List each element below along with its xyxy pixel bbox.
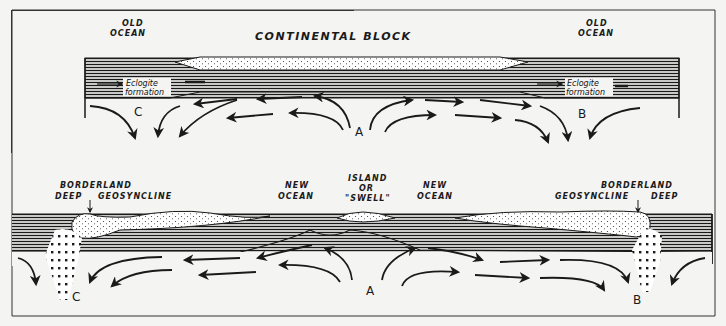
- svg-text:OR: OR: [359, 184, 374, 193]
- island-label: ISLAND: [348, 174, 387, 183]
- deep-label-right: DEEP: [651, 192, 678, 201]
- formation-label-left: formation: [125, 88, 164, 97]
- point-b: B: [578, 107, 586, 121]
- new-ocean-label-left: NEW: [285, 181, 309, 190]
- deep-label-left: DEEP: [55, 192, 82, 201]
- new-ocean-label-right: NEW: [423, 181, 447, 190]
- borderland-label-left: BORDERLAND: [60, 181, 132, 190]
- svg-text:OCEAN: OCEAN: [578, 29, 614, 38]
- formation-label-right: formation: [566, 88, 605, 97]
- point-c-bottom: C: [72, 290, 80, 304]
- convection-arrows-top: [90, 96, 640, 142]
- point-c: C: [134, 105, 142, 119]
- point-a-bottom: A: [366, 284, 375, 298]
- eclogite-label-right: Eclogite: [567, 79, 599, 88]
- svg-text:OCEAN: OCEAN: [278, 192, 314, 201]
- convection-diagram: Eclogite formation Eclogite formation OL…: [0, 0, 726, 326]
- point-a: A: [355, 125, 364, 139]
- continental-block-title: CONTINENTAL BLOCK: [255, 30, 412, 43]
- outer-frame: [12, 10, 715, 316]
- geosyncline-label-left: GEOSYNCLINE: [98, 192, 172, 201]
- old-ocean-label-right: OLD: [586, 19, 608, 28]
- bottom-panel: BORDERLAND DEEP GEOSYNCLINE NEW OCEAN IS…: [12, 174, 712, 307]
- svg-text:OCEAN: OCEAN: [417, 192, 453, 201]
- point-b-bottom: B: [633, 293, 641, 307]
- old-ocean-label-left: OLD: [122, 19, 144, 28]
- svg-text:OCEAN: OCEAN: [110, 29, 146, 38]
- top-panel: Eclogite formation Eclogite formation OL…: [85, 19, 679, 142]
- borderland-label-right: BORDERLAND: [601, 181, 673, 190]
- geosyncline-label-right: GEOSYNCLINE: [555, 192, 629, 201]
- svg-text:"SWELL": "SWELL": [345, 194, 391, 203]
- eclogite-label-left: Eclogite: [126, 79, 158, 88]
- continental-block-shape: [175, 57, 528, 70]
